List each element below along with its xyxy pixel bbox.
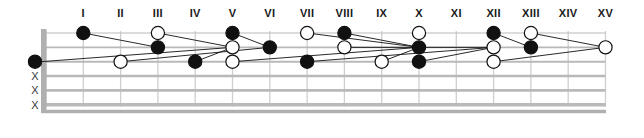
note-marker-open[interactable]	[487, 55, 500, 68]
fret-number-label: XI	[451, 7, 462, 19]
fret-number-label: VIII	[336, 7, 354, 19]
note-marker-open[interactable]	[301, 26, 314, 39]
fret-number-label: II	[117, 7, 124, 19]
fretboard-diagram	[0, 0, 644, 138]
note-marker-filled[interactable]	[189, 55, 202, 68]
open-string-note[interactable]	[28, 55, 41, 68]
fret-number-label: XII	[486, 7, 500, 19]
fret-number-label: VI	[264, 7, 275, 19]
fret-number-label: III	[153, 7, 163, 19]
note-marker-filled[interactable]	[226, 26, 239, 39]
note-marker-filled[interactable]	[263, 41, 276, 54]
note-marker-filled[interactable]	[524, 41, 537, 54]
fret-number-label: V	[229, 7, 237, 19]
nut	[41, 29, 47, 113]
note-marker-open[interactable]	[151, 26, 164, 39]
note-marker-filled[interactable]	[301, 55, 314, 68]
nut-group	[41, 29, 606, 113]
note-marker-filled[interactable]	[151, 41, 164, 54]
note-marker-open[interactable]	[338, 41, 351, 54]
connector-line	[494, 47, 606, 61]
note-marker-filled[interactable]	[77, 26, 90, 39]
note-marker-filled[interactable]	[487, 26, 500, 39]
note-marker-filled[interactable]	[412, 55, 425, 68]
fret-number-label: I	[82, 7, 85, 19]
note-marker-open[interactable]	[599, 41, 612, 54]
note-marker-open[interactable]	[375, 55, 388, 68]
note-marker-open[interactable]	[524, 26, 537, 39]
fret-number-label: X	[415, 7, 423, 19]
fret-number-label: XIII	[522, 7, 540, 19]
fret-number-label: XIV	[559, 7, 578, 19]
connector-line	[233, 47, 420, 61]
muted-string-marker: X	[31, 84, 38, 96]
fret-number-label: IV	[190, 7, 201, 19]
fret-number-label: IX	[376, 7, 387, 19]
fret-number-label: VII	[300, 7, 314, 19]
note-marker-open[interactable]	[114, 55, 127, 68]
connector-line	[307, 33, 419, 47]
fret-number-label: XV	[598, 7, 613, 19]
note-marker-open[interactable]	[226, 55, 239, 68]
connector-line	[41, 47, 233, 61]
note-marker-open[interactable]	[487, 41, 500, 54]
note-marker-filled[interactable]	[338, 26, 351, 39]
note-marker-filled[interactable]	[412, 41, 425, 54]
note-marker-open[interactable]	[412, 26, 425, 39]
note-marker-open[interactable]	[226, 41, 239, 54]
muted-string-marker: X	[31, 70, 38, 82]
fretboard-edge	[41, 110, 606, 114]
muted-string-marker: X	[31, 99, 38, 111]
